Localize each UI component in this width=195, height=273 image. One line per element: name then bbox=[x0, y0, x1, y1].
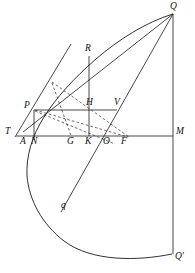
label-O: O bbox=[103, 137, 110, 147]
label-H: H bbox=[86, 98, 93, 108]
dashed-line-SF bbox=[52, 82, 129, 137]
dashed-line-PF bbox=[35, 110, 128, 137]
label-T: T bbox=[5, 127, 10, 137]
label-M: M bbox=[176, 127, 184, 137]
label-V: V bbox=[114, 98, 120, 108]
dashed-line-SG bbox=[52, 83, 72, 138]
label-K: K bbox=[85, 137, 91, 147]
label-A: A bbox=[20, 137, 26, 147]
label-R: R bbox=[85, 44, 91, 54]
label-G: G bbox=[67, 137, 74, 147]
tangent-line-TP bbox=[15, 44, 71, 137]
geometry-canvas bbox=[0, 0, 195, 273]
chord-line-Qq bbox=[61, 14, 173, 212]
chord-line-QA bbox=[23, 14, 173, 132]
label-Q-prime: Q' bbox=[175, 252, 184, 262]
label-q: q bbox=[61, 201, 66, 211]
label-N: N bbox=[31, 137, 37, 147]
geometry-figure: Q Q' R P H V T A N G K O F M q bbox=[0, 0, 195, 273]
label-P: P bbox=[24, 101, 30, 111]
label-F: F bbox=[121, 137, 127, 147]
label-Q: Q bbox=[170, 2, 177, 12]
